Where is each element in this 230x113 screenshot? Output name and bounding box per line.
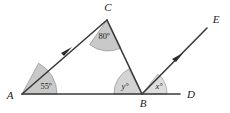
vertex-label-e: E (212, 13, 220, 25)
vertex-label-d: D (186, 88, 195, 100)
arrowhead-BE (172, 53, 183, 62)
angle-label-y: y° (120, 81, 129, 91)
vertex-label-b: B (140, 97, 147, 109)
geometry-canvas: A B C D E 55º 80º y° x° (0, 0, 230, 113)
angle-label-x: x° (154, 81, 163, 91)
angle-label-55: 55º (40, 81, 52, 91)
angle-label-80: 80º (98, 31, 110, 41)
ray-BE (142, 28, 207, 94)
geometry-figure: A B C D E 55º 80º y° x° (0, 0, 230, 113)
vertex-label-c: C (104, 1, 112, 13)
ray-AC (22, 20, 107, 94)
vertex-label-a: A (6, 89, 14, 101)
